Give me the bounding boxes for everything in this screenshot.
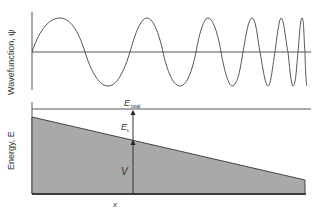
wavefunction-axis-label: Wavefunction, ψ [6, 29, 16, 95]
energy-panel [32, 102, 311, 194]
wavefunction-panel [32, 12, 311, 90]
energy-axis-label: Energy, E [6, 131, 16, 170]
e-total-subscript: total [131, 103, 140, 109]
e-total-label: E [124, 98, 131, 108]
e-total-arrowhead-icon [131, 110, 136, 115]
diagram: Wavefunction, ψ Energy, E E total E k V … [0, 0, 322, 216]
x-axis-label: x [112, 200, 118, 209]
e-k-subscript: k [127, 128, 129, 133]
potential-region [32, 117, 305, 194]
